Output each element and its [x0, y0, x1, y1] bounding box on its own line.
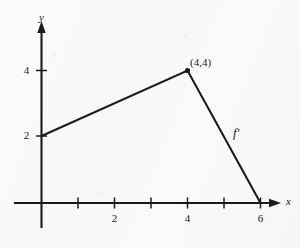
x-axis-arrowhead [269, 199, 281, 207]
graph-figure: y x 2 4 6 4 2 (4,4) f' [0, 0, 300, 248]
vertex-point-marker [185, 68, 190, 73]
y-axis-label: y [39, 12, 44, 23]
y-axis [37, 21, 45, 228]
fprime-curve [42, 71, 261, 204]
coordinate-plot [0, 0, 300, 248]
curve-label-fprime: f' [233, 126, 239, 139]
x-tick-label-6: 6 [252, 213, 269, 224]
x-tick-label-4: 4 [179, 213, 196, 224]
x-axis [14, 199, 281, 207]
y-tick-label-4: 4 [20, 65, 33, 76]
y-tick-label-2: 2 [20, 130, 33, 141]
x-axis-label: x [286, 196, 291, 207]
x-tick-label-2: 2 [106, 213, 123, 224]
vertex-point-label: (4,4) [190, 57, 211, 68]
